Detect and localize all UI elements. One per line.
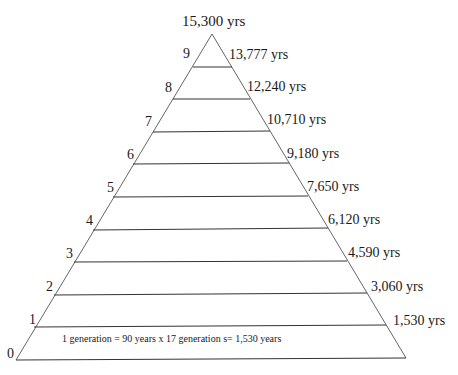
generation-footnote: 1 generation = 90 years x 17 generation … <box>62 334 281 344</box>
years-label-1: 1,530 yrs <box>393 314 445 328</box>
level-line-2 <box>54 293 367 295</box>
generation-label-7: 7 <box>145 115 152 129</box>
generation-label-1: 1 <box>29 313 36 327</box>
generation-label-2: 2 <box>46 280 53 294</box>
apex-years-label: 15,300 yrs <box>182 14 245 29</box>
generation-label-4: 4 <box>86 214 93 228</box>
years-label-5: 7,650 yrs <box>307 180 359 194</box>
level-line-7 <box>153 131 270 132</box>
level-line-0 <box>16 358 406 360</box>
level-line-6 <box>133 163 289 164</box>
generation-label-6: 6 <box>127 148 134 162</box>
years-label-2: 3,060 yrs <box>371 280 423 294</box>
generation-label-5: 5 <box>107 181 114 195</box>
years-label-8: 12,240 yrs <box>247 80 306 94</box>
generation-label-8: 8 <box>165 81 172 95</box>
level-line-4 <box>93 228 328 230</box>
years-label-7: 10,710 yrs <box>267 113 326 127</box>
level-line-5 <box>113 196 308 197</box>
years-label-6: 9,180 yrs <box>287 147 339 161</box>
level-line-1 <box>34 325 386 327</box>
generation-label-3: 3 <box>66 247 73 261</box>
generation-label-9: 9 <box>183 47 190 61</box>
years-label-3: 4,590 yrs <box>348 246 400 260</box>
pyramid-diagram: 15,300 yrs 9 8 7 6 5 4 3 2 1 0 13,777 yr… <box>0 0 458 375</box>
level-line-3 <box>74 261 347 262</box>
generation-label-0: 0 <box>7 347 14 361</box>
years-label-9: 13,777 yrs <box>229 48 288 62</box>
years-label-4: 6,120 yrs <box>328 213 380 227</box>
